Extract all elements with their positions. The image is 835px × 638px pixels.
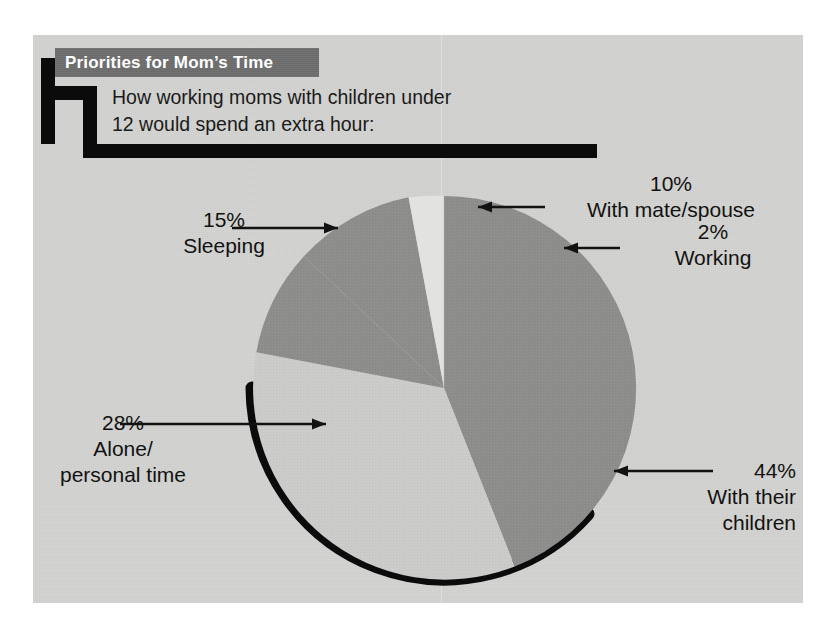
label-name-with-their-children-line2: children bbox=[608, 510, 796, 536]
label-with-mate-spouse: 10% With mate/spouse bbox=[551, 171, 791, 223]
label-percent-sleeping: 15% bbox=[168, 207, 280, 233]
label-name-alone-personal-time-line2: personal time bbox=[28, 462, 218, 488]
label-name-with-their-children-line1: With their bbox=[608, 484, 796, 510]
label-sleeping: 15% Sleeping bbox=[168, 207, 280, 259]
label-alone-personal-time: 28% Alone/ personal time bbox=[28, 410, 218, 488]
label-name-sleeping: Sleeping bbox=[168, 233, 280, 259]
infographic-figure: Priorities for Mom’s Time How working mo… bbox=[0, 0, 835, 638]
label-percent-with-their-children: 44% bbox=[608, 458, 796, 484]
label-name-working: Working bbox=[628, 245, 798, 271]
pie-chart bbox=[0, 0, 835, 638]
label-with-their-children: 44% With their children bbox=[608, 458, 796, 536]
label-percent-with-mate-spouse: 10% bbox=[551, 171, 791, 197]
label-percent-working: 2% bbox=[628, 219, 798, 245]
label-percent-alone-personal-time: 28% bbox=[28, 410, 218, 436]
label-name-alone-personal-time-line1: Alone/ bbox=[28, 436, 218, 462]
label-working: 2% Working bbox=[628, 219, 798, 271]
